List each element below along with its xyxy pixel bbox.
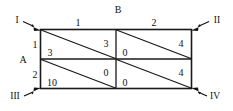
corner-arrow-head-ii (191, 24, 201, 31)
corner-marker-label-iv: IV (210, 91, 220, 101)
col-axis-title: B (115, 4, 122, 15)
cell-r1c2-upper-right-value: 4 (179, 38, 184, 49)
corner-arrow-head-i (31, 24, 41, 31)
row-label-2: 2 (33, 69, 38, 80)
row-axis-title: A (19, 54, 27, 65)
row-label-1: 1 (33, 39, 38, 50)
cell-r1c1-upper-right-value: 3 (104, 38, 109, 49)
corner-arrow-head-iv (191, 88, 201, 95)
col-label-1: 1 (76, 17, 81, 28)
corner-arrow-head-iii (31, 88, 41, 95)
payoff-matrix-diagram: B A 1 2 1 2 3 3 4 0 0 10 4 0 I II III IV (0, 0, 233, 111)
cell-r2c1-lower-left-value: 10 (47, 77, 57, 88)
cell-r2c1-upper-right-value: 0 (104, 67, 109, 78)
col-label-2: 2 (152, 17, 157, 28)
cell-r2c2-lower-left-value: 0 (123, 77, 128, 88)
corner-marker-label-ii: II (214, 15, 220, 25)
corner-marker-label-i: I (15, 15, 18, 25)
corner-marker-label-iii: III (10, 91, 20, 101)
cell-r1c2-lower-left-value: 0 (123, 47, 128, 58)
cell-r2c2-upper-right-value: 4 (179, 67, 184, 78)
diagram-canvas: B A 1 2 1 2 3 3 4 0 0 10 4 0 I II III IV (0, 0, 233, 111)
cell-r1c1-lower-left-value: 3 (48, 47, 53, 58)
